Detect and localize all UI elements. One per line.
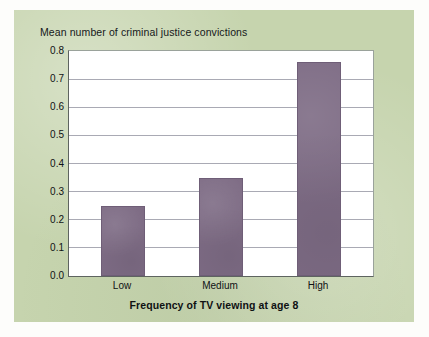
x-tick-label: Low xyxy=(113,280,131,291)
y-tick-label: 0.7 xyxy=(30,73,64,84)
figure-page: Mean number of criminal justice convicti… xyxy=(0,0,429,337)
y-tick-label: 0.6 xyxy=(30,101,64,112)
y-tick-label: 0.1 xyxy=(30,241,64,252)
x-axis-tick-labels: Low Medium High xyxy=(68,280,372,298)
y-tick-label: 0.3 xyxy=(30,185,64,196)
bar-medium xyxy=(199,178,243,276)
bar-series xyxy=(69,51,373,276)
y-tick-label: 0.8 xyxy=(30,45,64,56)
x-axis-label: Frequency of TV viewing at age 8 xyxy=(14,299,414,311)
y-axis-tick-labels: 0.8 0.7 0.6 0.5 0.4 0.3 0.2 0.1 0.0 xyxy=(22,50,64,275)
y-tick-label: 0.4 xyxy=(30,157,64,168)
bar-high xyxy=(297,62,341,276)
y-tick-label: 0.0 xyxy=(30,270,64,281)
x-tick-label: Medium xyxy=(202,280,238,291)
bar-low xyxy=(101,206,145,276)
chart-panel: Mean number of criminal justice convicti… xyxy=(14,10,414,322)
plot-area xyxy=(68,50,374,277)
y-tick-label: 0.5 xyxy=(30,129,64,140)
x-tick-label: High xyxy=(308,280,329,291)
chart-title: Mean number of criminal justice convicti… xyxy=(40,26,247,38)
y-tick-label: 0.2 xyxy=(30,213,64,224)
